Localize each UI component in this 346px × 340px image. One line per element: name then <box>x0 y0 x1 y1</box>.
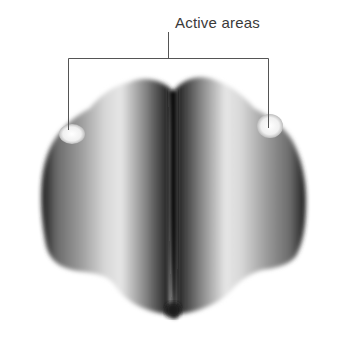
active-area-left <box>59 124 85 144</box>
right-hemisphere <box>176 77 306 316</box>
left-hemisphere <box>41 79 170 316</box>
brain-diagram <box>0 0 346 340</box>
active-area-right <box>257 114 283 138</box>
brainstem <box>165 302 181 318</box>
